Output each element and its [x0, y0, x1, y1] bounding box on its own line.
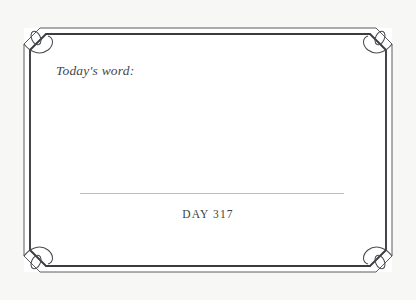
prompt-label: Today's word:	[56, 62, 134, 80]
card-content: Today's word: DAY 317	[0, 0, 416, 300]
day-counter-label: DAY 317	[0, 206, 416, 222]
journal-card: Today's word: DAY 317	[0, 0, 416, 300]
